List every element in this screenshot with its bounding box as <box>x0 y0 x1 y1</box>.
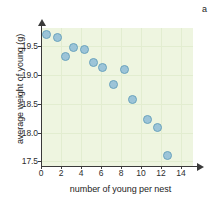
x-tick-label: 4 <box>71 169 91 178</box>
x-tick-mark <box>121 166 122 169</box>
x-axis-label: number of young per nest <box>33 184 208 194</box>
x-tick-mark <box>81 166 82 169</box>
x-tick-mark <box>181 166 182 169</box>
x-tick-label: 2 <box>51 169 71 178</box>
scatter-plot-figure: 17.518.018.519.019.5 02468101214 number … <box>0 0 216 205</box>
x-tick-mark <box>61 166 62 169</box>
x-tick-mark <box>161 166 162 169</box>
y-axis-label: average weight of young (g) <box>15 9 25 169</box>
panel-label: a <box>202 4 207 14</box>
x-tick-label: 8 <box>111 169 131 178</box>
x-tick-mark <box>101 166 102 169</box>
x-tick-mark <box>41 166 42 169</box>
x-tick-label: 12 <box>151 169 171 178</box>
x-tick-label: 14 <box>171 169 191 178</box>
x-axis-ticks: 02468101214 <box>0 0 216 205</box>
x-tick-label: 6 <box>91 169 111 178</box>
x-tick-label: 10 <box>131 169 151 178</box>
x-tick-mark <box>141 166 142 169</box>
x-tick-label: 0 <box>31 169 51 178</box>
